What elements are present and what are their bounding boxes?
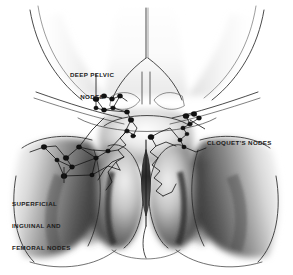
node-superficial-inguinal bbox=[55, 158, 59, 162]
node-deep-pelvic bbox=[128, 118, 134, 123]
node-deep-pelvic bbox=[124, 110, 129, 114]
node-cloquet bbox=[183, 113, 189, 118]
node-cloquet bbox=[191, 112, 197, 117]
lymphatic-drainage-figure: DEEP PELVIC NODES CLOQUET'S NODES SUPERF… bbox=[0, 0, 293, 275]
label-cloquets-nodes: CLOQUET'S NODES bbox=[207, 124, 272, 161]
label-superficial-line3: FEMORAL NODES bbox=[12, 244, 71, 251]
node-femoral bbox=[106, 149, 111, 153]
node-vulvar bbox=[125, 129, 130, 133]
node-cloquet bbox=[188, 122, 193, 126]
node-cloquet bbox=[178, 138, 182, 142]
label-deep-pelvic-line2: NODES bbox=[70, 93, 114, 100]
node-superficial-inguinal bbox=[70, 165, 75, 169]
node-femoral bbox=[94, 156, 99, 160]
node-vulvar bbox=[148, 134, 154, 139]
label-deep-pelvic-line1: DEEP PELVIC bbox=[70, 71, 114, 78]
node-cloquet bbox=[197, 116, 202, 120]
node-cloquet bbox=[181, 126, 185, 130]
node-cloquet bbox=[185, 132, 189, 136]
label-superficial-inguinal-femoral-nodes: SUPERFICIAL INGUINAL AND FEMORAL NODES bbox=[12, 185, 71, 266]
label-cloquet-line1: CLOQUET'S NODES bbox=[207, 139, 272, 146]
label-deep-pelvic-nodes: DEEP PELVIC NODES bbox=[70, 56, 114, 115]
node-superficial-inguinal bbox=[63, 156, 69, 161]
node-superficial-inguinal bbox=[41, 145, 47, 150]
label-superficial-line1: SUPERFICIAL bbox=[12, 200, 71, 207]
label-superficial-line2: INGUINAL AND bbox=[12, 222, 71, 229]
node-vulvar bbox=[182, 145, 186, 149]
node-deep-pelvic bbox=[117, 94, 122, 98]
node-deep-pelvic bbox=[131, 134, 136, 138]
node-femoral bbox=[90, 173, 94, 177]
node-superficial-inguinal bbox=[76, 145, 81, 149]
